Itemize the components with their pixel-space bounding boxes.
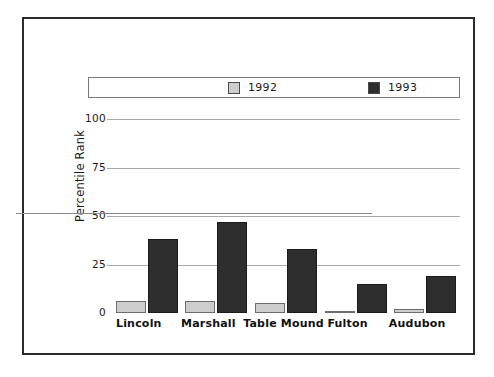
chart-figure: 1992 1993 Percentile Rank 0255075100 Lin… bbox=[0, 0, 494, 377]
y-tick-label-25: 25 bbox=[78, 258, 106, 270]
y-tick-label-50: 50 bbox=[78, 209, 106, 221]
y-axis-ticks: 0255075100 bbox=[76, 119, 106, 313]
x-axis-labels: LincolnMarshallTable MoundFultonAudubon bbox=[104, 317, 468, 335]
bar-1992-audubon[interactable] bbox=[394, 309, 424, 313]
legend-label-1993: 1993 bbox=[388, 81, 417, 94]
bar-group bbox=[321, 119, 391, 313]
x-tick-label-audubon: Audubon bbox=[382, 317, 452, 330]
y-tick-label-75: 75 bbox=[78, 161, 106, 173]
legend-entry-1993[interactable]: 1993 bbox=[368, 78, 417, 97]
bar-1993-table-mound[interactable] bbox=[287, 249, 317, 313]
bar-group bbox=[112, 119, 182, 313]
bar-1992-lincoln[interactable] bbox=[116, 301, 146, 313]
bar-1992-table-mound[interactable] bbox=[255, 303, 285, 313]
bar-1992-fulton[interactable] bbox=[325, 311, 355, 313]
bar-1993-fulton[interactable] bbox=[357, 284, 387, 313]
x-tick-label-fulton: Fulton bbox=[313, 317, 383, 330]
legend-swatch-1993 bbox=[368, 82, 380, 94]
bar-1993-lincoln[interactable] bbox=[148, 239, 178, 313]
legend-swatch-1992 bbox=[228, 82, 240, 94]
bar-1992-marshall[interactable] bbox=[185, 301, 215, 313]
bar-1993-marshall[interactable] bbox=[217, 222, 247, 313]
legend-entry-1992[interactable]: 1992 bbox=[228, 78, 277, 97]
y-tick-label-0: 0 bbox=[78, 306, 106, 318]
bar-1993-audubon[interactable] bbox=[426, 276, 456, 313]
bar-group bbox=[390, 119, 460, 313]
x-tick-label-lincoln: Lincoln bbox=[104, 317, 174, 330]
chart-frame: 1992 1993 Percentile Rank 0255075100 Lin… bbox=[22, 17, 475, 355]
bar-group bbox=[182, 119, 252, 313]
x-axis-line bbox=[16, 213, 372, 214]
x-tick-label-marshall: Marshall bbox=[174, 317, 244, 330]
bar-group bbox=[251, 119, 321, 313]
legend-label-1992: 1992 bbox=[248, 81, 277, 94]
x-tick-label-table-mound: Table Mound bbox=[243, 317, 313, 330]
chart-legend: 1992 1993 bbox=[88, 77, 460, 98]
y-tick-label-100: 100 bbox=[78, 112, 106, 124]
plot-area bbox=[112, 119, 460, 313]
